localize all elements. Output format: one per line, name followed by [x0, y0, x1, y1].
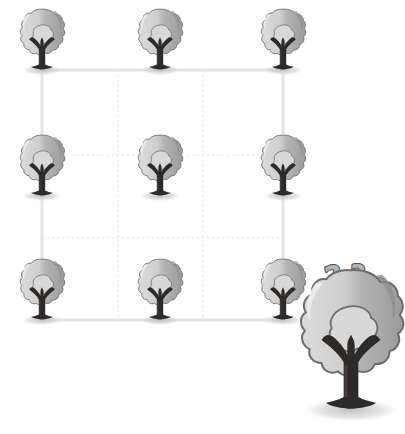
tree-graphic: [138, 9, 183, 75]
tree-graphic: [138, 135, 183, 201]
tree-r1c2: [138, 9, 183, 75]
confused-tree-group: ???: [301, 258, 403, 422]
tree-grid-illustration: ???: [0, 0, 405, 434]
confused-tree: [301, 270, 403, 422]
confused-tree-graphic: [301, 270, 403, 422]
tree-graphic: [20, 9, 65, 75]
tree-graphic: [20, 135, 65, 201]
tree-graphic: [261, 135, 306, 201]
tree-r3c3: [261, 259, 306, 325]
tree-r2c2: [138, 135, 183, 201]
tree-r1c1: [20, 9, 65, 75]
tree-r3c2: [138, 259, 183, 325]
illustration-canvas: ???: [0, 0, 405, 434]
grid-trees: [20, 9, 306, 325]
tree-graphic: [138, 259, 183, 325]
tree-graphic: [301, 270, 403, 422]
tree-r2c1: [20, 135, 65, 201]
tree-r1c3: [261, 9, 306, 75]
tree-r2c3: [261, 135, 306, 201]
tree-graphic: [261, 259, 306, 325]
tree-graphic: [261, 9, 306, 75]
tree-graphic: [20, 259, 65, 325]
tree-r3c1: [20, 259, 65, 325]
